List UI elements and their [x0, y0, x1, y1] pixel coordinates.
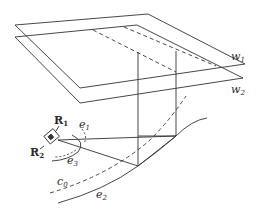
label-w2: w2	[231, 83, 245, 97]
label-e1: e1	[79, 118, 90, 132]
cross-line-2	[138, 136, 176, 166]
robot-r2-leader	[40, 146, 44, 149]
plane-w2	[15, 25, 243, 103]
label-e2: e2	[96, 188, 108, 202]
label-e3: e3	[67, 154, 79, 168]
diagram-canvas: w1 w2 R1 R2 e1 e2 e3 c0	[0, 0, 258, 217]
dashed-line-plane-1	[93, 30, 176, 72]
sight-line-1	[58, 136, 176, 140]
label-c0: c0	[57, 175, 68, 189]
label-R2: R2	[30, 146, 44, 160]
label-w1: w1	[231, 50, 245, 64]
diagram-figure: w1 w2 R1 R2 e1 e2 e3 c0	[0, 0, 258, 217]
robot-icon	[44, 129, 60, 144]
plane-w1	[15, 14, 245, 88]
label-R1: R1	[54, 114, 68, 128]
